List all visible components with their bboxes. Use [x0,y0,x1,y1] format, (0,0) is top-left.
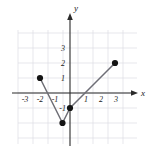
data-point-vertex-minimum [59,120,65,126]
data-point-interior-point [67,105,73,111]
x-tick-label-2: 2 [99,95,103,104]
x-tick-label-3: 3 [113,95,118,104]
coordinate-plane-plot: y x -3 -2 -1 1 2 3 3 2 1 -1 [0,0,155,159]
x-tick-label-1: 1 [84,95,88,104]
graph-figure: y x -3 -2 -1 1 2 3 3 2 1 -1 [0,0,155,159]
x-tick-label--2: -2 [37,95,44,104]
x-axis-label: x [140,88,145,98]
y-tick-label--1: -1 [59,104,66,113]
x-axis [12,90,138,96]
y-tick-label-2: 2 [61,59,65,68]
data-point-left-endpoint [37,75,43,81]
data-point-right-endpoint [112,60,118,66]
grid-horizontal-lines [18,33,137,138]
x-tick-label--3: -3 [22,95,29,104]
y-axis-label: y [73,3,78,13]
y-tick-label-3: 3 [60,44,65,53]
y-tick-label-1: 1 [61,74,65,83]
